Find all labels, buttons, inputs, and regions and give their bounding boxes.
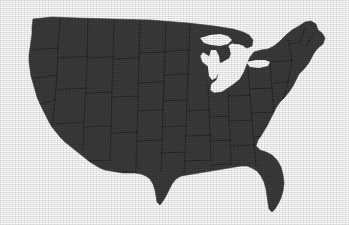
screenshot-canvas [0, 0, 349, 225]
us-contiguous-map [0, 0, 349, 225]
